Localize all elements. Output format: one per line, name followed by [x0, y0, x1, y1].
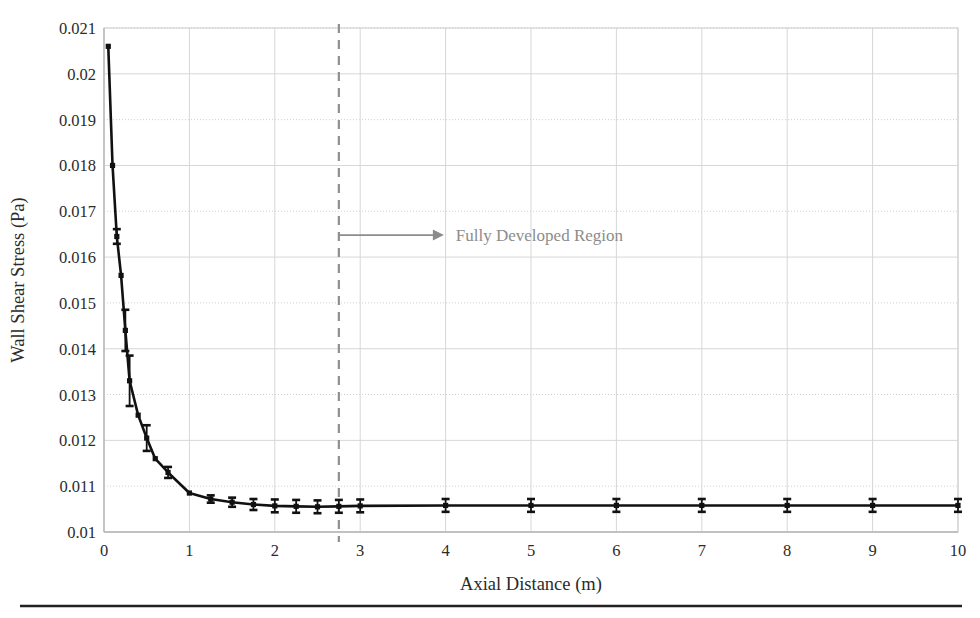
x-tick-label: 0 — [100, 541, 108, 560]
x-tick-label: 8 — [783, 541, 791, 560]
y-tick-label: 0.02 — [67, 65, 96, 84]
y-tick-label: 0.014 — [59, 340, 96, 359]
y-tick-label: 0.016 — [59, 248, 96, 267]
x-tick-label: 7 — [698, 541, 706, 560]
x-tick-label: 4 — [441, 541, 449, 560]
data-point-marker — [336, 504, 341, 509]
data-point-marker — [699, 503, 704, 508]
data-point-marker — [272, 503, 277, 508]
y-tick-label: 0.011 — [59, 477, 96, 496]
x-axis-title: Axial Distance (m) — [460, 574, 602, 595]
x-tick-labels: 012345678910 — [100, 541, 966, 560]
data-point-marker — [127, 378, 132, 383]
data-point-marker — [165, 470, 170, 475]
data-point-marker — [315, 504, 320, 509]
y-tick-label: 0.021 — [59, 19, 96, 38]
y-tick-label: 0.017 — [59, 202, 96, 221]
x-tick-label: 10 — [950, 541, 967, 560]
y-tick-label: 0.01 — [67, 523, 96, 542]
x-tick-label: 5 — [527, 541, 535, 560]
data-point-marker — [123, 328, 128, 333]
y-tick-label: 0.013 — [59, 386, 96, 405]
data-point-marker — [358, 503, 363, 508]
figure-container: 012345678910 0.010.0110.0120.0130.0140.0… — [0, 0, 980, 618]
data-point-marker — [443, 503, 448, 508]
data-point-marker — [110, 163, 115, 168]
data-point-marker — [106, 44, 111, 49]
wall-shear-stress-chart: 012345678910 0.010.0110.0120.0130.0140.0… — [0, 0, 980, 618]
data-point-marker — [251, 502, 256, 507]
data-point-marker — [955, 503, 960, 508]
data-point-marker — [118, 273, 123, 278]
data-point-marker — [153, 456, 158, 461]
y-axis-title: Wall Shear Stress (Pa) — [8, 197, 29, 363]
data-point-marker — [528, 503, 533, 508]
y-tick-label: 0.015 — [59, 294, 96, 313]
x-tick-label: 9 — [868, 541, 876, 560]
data-point-marker — [187, 490, 192, 495]
data-point-marker — [870, 503, 875, 508]
data-point-marker — [136, 413, 141, 418]
y-tick-label: 0.012 — [59, 431, 96, 450]
data-point-marker — [114, 234, 119, 239]
data-point-marker — [294, 504, 299, 509]
data-point-marker — [144, 435, 149, 440]
fully-developed-label: Fully Developed Region — [456, 226, 624, 245]
y-tick-label: 0.019 — [59, 111, 96, 130]
data-point-marker — [208, 496, 213, 501]
x-tick-label: 6 — [612, 541, 620, 560]
x-tick-label: 1 — [185, 541, 193, 560]
data-point-marker — [785, 503, 790, 508]
data-point-marker — [230, 500, 235, 505]
x-tick-label: 2 — [271, 541, 279, 560]
data-point-marker — [614, 503, 619, 508]
x-tick-label: 3 — [356, 541, 364, 560]
y-tick-labels: 0.010.0110.0120.0130.0140.0150.0160.0170… — [59, 19, 96, 542]
y-tick-label: 0.018 — [59, 156, 96, 175]
